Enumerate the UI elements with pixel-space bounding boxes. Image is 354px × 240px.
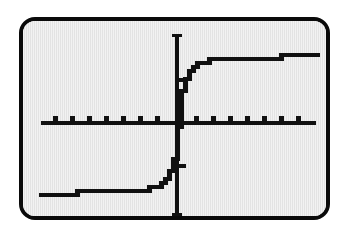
- function-graph-plot: [23, 21, 326, 216]
- curve-pixel: [179, 93, 184, 97]
- x-tick: [228, 116, 233, 122]
- curve-pixel: [175, 129, 180, 133]
- x-tick: [296, 116, 301, 122]
- curve-pixel: [207, 61, 212, 65]
- x-tick: [279, 116, 284, 122]
- x-tick: [262, 116, 267, 122]
- curve-pixel: [279, 57, 284, 61]
- curve-pixel: [175, 145, 180, 149]
- curve-pixel: [175, 141, 180, 145]
- x-tick: [53, 116, 58, 122]
- x-tick: [155, 116, 160, 122]
- x-tick: [70, 116, 75, 122]
- curve-pixel: [315, 53, 320, 57]
- curve-pixel: [175, 133, 180, 137]
- curve-pixel: [191, 69, 196, 73]
- curve-pixel: [179, 105, 184, 109]
- curve-pixel: [175, 153, 180, 157]
- y-axis-top-cap: [172, 34, 182, 37]
- curve-pixel: [179, 121, 184, 125]
- curve-pixel: [171, 161, 176, 165]
- curve-pixel: [147, 189, 152, 193]
- curve-pixel: [187, 77, 192, 81]
- curve-pixel: [175, 149, 180, 153]
- curve-pixel: [179, 97, 184, 101]
- curve-pixel: [163, 181, 168, 185]
- curve-pixel: [179, 117, 184, 121]
- x-tick: [211, 116, 216, 122]
- curve-pixel: [175, 157, 180, 161]
- curve-pixel: [183, 89, 188, 93]
- curve-pixel: [179, 125, 184, 129]
- x-tick: [245, 116, 250, 122]
- curve-pixel: [167, 173, 172, 177]
- calculator-screen-bezel: [19, 17, 330, 220]
- curve-pixel: [183, 85, 188, 89]
- curve-pixel: [167, 177, 172, 181]
- curve-pixel: [171, 165, 176, 169]
- curve-pixel: [171, 169, 176, 173]
- x-tick: [104, 116, 109, 122]
- x-tick: [87, 116, 92, 122]
- curve-pixel: [159, 185, 164, 189]
- y-tick: [179, 164, 186, 168]
- x-tick: [194, 116, 199, 122]
- x-tick: [121, 116, 126, 122]
- curve-pixel: [179, 101, 184, 105]
- curve-pixel: [183, 81, 188, 85]
- curve-pixel: [179, 109, 184, 113]
- graphing-calculator-figure: [0, 0, 354, 240]
- calculator-screen-surface: [23, 21, 326, 216]
- y-axis-bottom-cap: [172, 213, 182, 216]
- curve-pixel: [187, 73, 192, 77]
- curve-pixel: [179, 113, 184, 117]
- curve-pixel: [175, 137, 180, 141]
- x-tick: [138, 116, 143, 122]
- curve-pixel: [195, 65, 200, 69]
- curve-pixel: [75, 193, 80, 197]
